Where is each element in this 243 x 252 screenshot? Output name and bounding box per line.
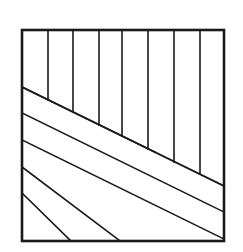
herringbone-figure: Herringbone chevron line pattern in squa… (0, 0, 243, 252)
figure-container: Herringbone chevron line pattern in squa… (0, 0, 243, 252)
